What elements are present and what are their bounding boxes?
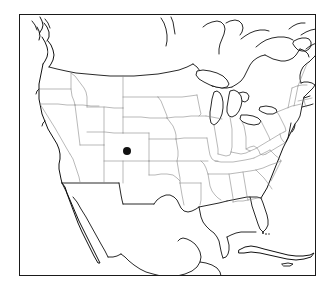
west-coast <box>36 64 62 183</box>
florida-keys <box>262 232 270 235</box>
point-marker-group[interactable] <box>123 147 131 155</box>
point-marker[interactable] <box>123 147 131 155</box>
east-coast <box>261 53 316 198</box>
map-figure <box>0 0 335 288</box>
state-boundaries <box>39 62 312 205</box>
us-canada-border <box>49 49 309 88</box>
st-lawrence-region <box>203 20 293 54</box>
us-mexico-border <box>62 183 199 212</box>
northern-canada <box>161 17 175 46</box>
pacific-northwest-coast <box>32 17 54 67</box>
map-frame <box>19 14 316 276</box>
great-lakes <box>196 70 277 125</box>
baja-california <box>62 183 121 263</box>
cuba-outline <box>239 246 314 266</box>
united-states-map <box>19 14 316 276</box>
mexico-outline <box>121 238 221 276</box>
canadian-maritimes <box>289 23 316 51</box>
